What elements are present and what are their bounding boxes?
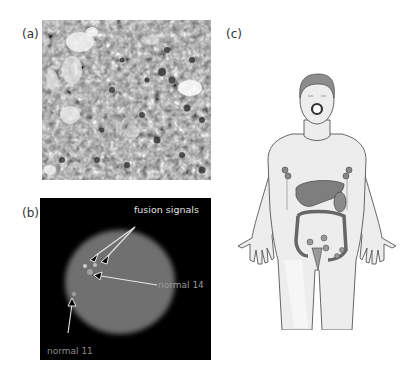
normal-14-signal bbox=[87, 269, 93, 275]
normal-11-signal bbox=[72, 292, 76, 296]
fusion-signal bbox=[83, 264, 87, 268]
spleen bbox=[334, 192, 346, 212]
histology-image bbox=[42, 20, 211, 180]
fusion-signal bbox=[93, 263, 97, 267]
body-illustration bbox=[232, 60, 402, 330]
normal-11-label: normal 11 bbox=[47, 346, 93, 356]
panel-c-label: (c) bbox=[226, 27, 242, 41]
torso bbox=[268, 134, 366, 330]
panel-b-label: (b) bbox=[22, 206, 39, 220]
fusion-signals-label: fusion signals bbox=[134, 204, 199, 215]
mouth-lesion bbox=[312, 104, 322, 114]
fish-image: fusion signals normal 14 normal 11 bbox=[40, 198, 211, 360]
panel-a-label: (a) bbox=[22, 27, 39, 41]
nucleus-diagram bbox=[40, 198, 211, 360]
normal-14-label: normal 14 bbox=[158, 280, 204, 290]
human-body-diagram bbox=[232, 60, 402, 330]
histology-micrograph bbox=[42, 20, 211, 180]
